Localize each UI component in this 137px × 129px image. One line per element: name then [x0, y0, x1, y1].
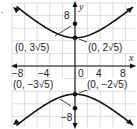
- hyperbola-graph: y x 8 −8 −8 −4 0 4 8 (0, 3√5) (0, 2√5) (…: [0, 0, 137, 129]
- lower-focus-point: [73, 106, 78, 111]
- y-tick-8: 8: [64, 10, 70, 21]
- x-tick-0: 0: [78, 68, 84, 79]
- upper-vertex-point: [73, 36, 78, 41]
- lower-vertex-point: [73, 92, 78, 97]
- upper-focus-label: (0, 3√5): [15, 42, 49, 53]
- x-axis-right-arrow-icon: [130, 64, 136, 69]
- x-tick-neg8: −8: [12, 68, 24, 79]
- x-tick-4: 4: [96, 68, 102, 79]
- x-axis-label: x: [128, 52, 134, 63]
- y-tick-neg8: −8: [61, 112, 73, 123]
- x-tick-8: 8: [120, 68, 126, 79]
- lower-vertex-label: (0, −2√5): [87, 79, 127, 90]
- y-axis-top-arrow-icon: [73, 1, 78, 7]
- x-tick-neg4: −4: [38, 68, 50, 79]
- y-axis-label: y: [78, 1, 84, 12]
- lower-focus-label: (0, −3√5): [13, 79, 53, 90]
- y-axis-bottom-arrow-icon: [73, 123, 78, 129]
- x-axis: [11, 64, 136, 69]
- upper-vertex-label: (0, 2√5): [88, 42, 122, 53]
- upper-focus-point: [73, 21, 78, 26]
